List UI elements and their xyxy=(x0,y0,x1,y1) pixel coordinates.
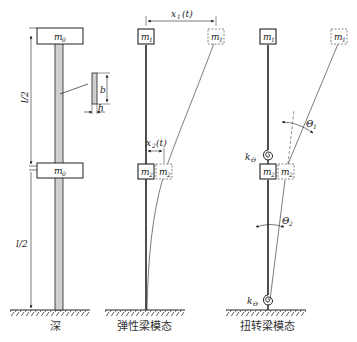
x1-arg: (t) xyxy=(182,9,193,19)
dimension-x2: x 2 (t) xyxy=(146,138,167,163)
mass-mid-sub: 0 xyxy=(62,170,66,177)
ground-3 xyxy=(226,310,306,316)
mass-top-sub: 0 xyxy=(62,36,66,43)
length-upper-label: l/2 xyxy=(20,91,30,103)
length-lower-label: l/2 xyxy=(16,239,28,249)
theta2-sub: 2 xyxy=(288,220,293,227)
mass-top-block: m 0 xyxy=(37,28,83,44)
spring-upper-label: k xyxy=(245,152,250,162)
mass-2-sub: 2 xyxy=(148,171,153,178)
dimension-upper: l/2 xyxy=(20,28,37,166)
angle-theta2: Θ 2 xyxy=(256,216,293,227)
spring-lower-label: k xyxy=(247,296,252,306)
caption-torsion-beam-mode: 扭转梁模态 xyxy=(240,319,295,333)
x2-label: x xyxy=(146,138,151,148)
panel-elastic-beam-mode: m 1 m 1 m 2 m 2 x 1 (t) xyxy=(105,9,224,333)
angle-theta1: Θ 1 xyxy=(282,119,317,133)
dimension-lower: l/2 xyxy=(16,170,37,308)
mass-1-displaced-block: m 1 xyxy=(331,29,347,44)
spring-lower-sub: Θ xyxy=(253,300,258,307)
mass-mid-block: m 0 xyxy=(37,163,83,178)
section-h-label: h xyxy=(98,103,104,113)
mass-1-block: m 1 xyxy=(138,29,154,44)
x1-sub: 1 xyxy=(177,13,181,20)
torsion-spring-upper-icon: k Θ xyxy=(245,150,273,164)
torsion-spring-lower-icon: k Θ xyxy=(247,295,273,310)
mass-2-block: m 2 xyxy=(260,164,276,179)
panel-torsion-beam-mode: Θ 1 Θ 2 m 1 m 1 m 2 m 2 xyxy=(226,29,347,333)
x2-arg: (t) xyxy=(156,138,167,148)
mass-1-block: m 1 xyxy=(260,29,276,44)
mass-1-sub: 1 xyxy=(149,36,153,43)
spring-upper-sub: Θ xyxy=(251,156,256,163)
theta1-sub: 1 xyxy=(313,123,317,130)
mass-1-sub: 1 xyxy=(271,36,275,43)
dimension-x1: x 1 (t) xyxy=(146,9,216,26)
mass-1-displaced-block: m 1 xyxy=(208,29,224,44)
mass-1-displaced-sub: 1 xyxy=(219,36,223,43)
section-b-label: b xyxy=(100,85,106,95)
mass-2-displaced-sub: 2 xyxy=(166,171,171,178)
caption-physical: 深 xyxy=(50,320,61,333)
ground-2 xyxy=(105,310,185,316)
mass-2-displaced-block: m 2 xyxy=(278,164,294,179)
mass-2-displaced-sub: 2 xyxy=(288,171,293,178)
mass-1-displaced-sub: 1 xyxy=(342,36,346,43)
rotated-upper-line xyxy=(288,44,338,164)
rotated-lower-line xyxy=(270,180,285,300)
caption-elastic-beam-mode: 弹性梁模态 xyxy=(117,319,172,333)
diagram-canvas: m 0 m 0 l/2 l/2 b xyxy=(0,0,357,342)
mass-2-displaced-block: m 2 xyxy=(156,164,172,179)
mass-2-block: m 2 xyxy=(138,164,154,179)
ground-1 xyxy=(10,310,90,316)
cross-section-detail: b h xyxy=(60,73,110,114)
panel-physical: m 0 m 0 l/2 l/2 b xyxy=(10,28,110,333)
x1-label: x xyxy=(171,9,176,19)
mass-2-sub: 2 xyxy=(270,171,275,178)
